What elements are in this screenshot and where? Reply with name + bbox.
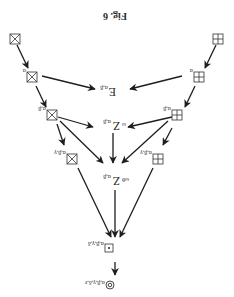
svg-text:α,β: α,β xyxy=(38,106,46,112)
node-crossed-box-alpha-beta: α,β xyxy=(38,106,57,120)
circled-ring-icon xyxy=(106,281,114,289)
svg-text:ωθ: ωθ xyxy=(122,177,129,183)
edge-xbox-to-xbox-a xyxy=(17,45,28,68)
node-grid-box xyxy=(213,34,223,44)
node-crossed-box-alpha-beta-gamma: α,β,γ xyxy=(54,150,77,164)
edge-xbox-a-to-E xyxy=(42,76,95,89)
svg-text:α: α xyxy=(22,68,26,74)
node-Z-omega-theta: ωθ Z α,β xyxy=(103,174,129,188)
svg-text:α,β,γ: α,β,γ xyxy=(54,150,66,156)
node-Z-omega: ω Z α,β xyxy=(103,119,126,133)
svg-text:α,β,γ: α,β,γ xyxy=(140,150,152,156)
node-grid-box-alpha-beta-gamma: α,β,γ xyxy=(140,150,163,164)
edge-gbox-a-to-E xyxy=(130,76,182,89)
edge-xbox-ab-to-Zw xyxy=(58,117,93,127)
edge-xbox-a-to-xbox-ab xyxy=(36,86,46,107)
svg-text:α,β: α,β xyxy=(163,106,171,112)
svg-text:α,β: α,β xyxy=(100,85,108,91)
svg-text:ω: ω xyxy=(122,122,126,128)
node-circled-ring: α,β,γ,δ,ε xyxy=(84,280,114,289)
svg-text:E: E xyxy=(109,85,116,99)
svg-text:α,β,γ,δ: α,β,γ,δ xyxy=(88,241,104,247)
edge-gbox-ab-to-gbox-abg xyxy=(163,128,172,145)
edges xyxy=(17,45,216,275)
svg-text:α,β,γ,δ,ε: α,β,γ,δ,ε xyxy=(84,280,105,286)
edge-gbox-ab-to-Zw xyxy=(128,117,172,127)
node-grid-box-alpha: α xyxy=(189,68,204,82)
svg-text:Z: Z xyxy=(113,119,120,133)
svg-text:α,β: α,β xyxy=(103,174,111,180)
svg-text:α: α xyxy=(189,68,193,74)
edge-xbox-ab-to-xbox-abg xyxy=(57,124,64,145)
node-crossed-box-alpha: α xyxy=(22,68,37,82)
figure-6-diagram: Fig. 6 α α xyxy=(0,0,234,297)
edge-gbox-a-to-gbox-ab xyxy=(185,86,195,107)
node-crossed-box xyxy=(10,34,20,44)
node-E: E α,β xyxy=(100,85,116,99)
svg-text:Z: Z xyxy=(113,174,120,188)
edge-gbox-to-gbox-a xyxy=(205,45,216,68)
node-dot-box: α,β,γ,δ xyxy=(88,241,113,252)
figure-title: Fig. 6 xyxy=(103,11,127,22)
svg-text:α,β: α,β xyxy=(103,119,111,125)
